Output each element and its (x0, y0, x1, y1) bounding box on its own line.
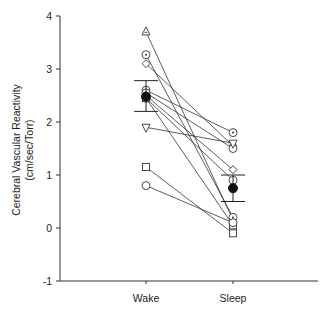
mean-marker (142, 92, 151, 101)
circle-dot-center (232, 132, 234, 134)
x-tick-label-wake: Wake (133, 292, 160, 304)
y-tick-label: 2 (46, 116, 52, 128)
square-marker (230, 230, 237, 237)
triangle-down-marker (142, 124, 150, 132)
series-markers (142, 27, 237, 237)
series-line (146, 64, 233, 146)
y-tick-label: -1 (43, 275, 52, 287)
triangle-up-marker (142, 27, 150, 35)
series-lines (146, 32, 233, 233)
chart-container: -101234WakeSleep Cerebral Vascular React… (0, 0, 327, 313)
series-line (146, 167, 233, 233)
circle-dot-center (232, 216, 234, 218)
square-marker (143, 164, 150, 171)
y-tick-label: 1 (46, 169, 52, 181)
y-tick-label: 0 (46, 222, 52, 234)
circle-marker (229, 219, 237, 227)
series-line (146, 93, 233, 149)
x-tick-label-sleep: Sleep (220, 292, 247, 304)
plot-svg: -101234WakeSleep Cerebral Vascular React… (0, 0, 327, 313)
y-axis-units: (cm/sec/Torr) (23, 119, 35, 180)
series-line (146, 96, 233, 170)
series-line (146, 98, 233, 180)
y-axis-label: Cerebral Vascular Reactivity (10, 83, 22, 215)
series-line (146, 127, 233, 143)
mean-marker (229, 184, 238, 193)
y-tick-label: 4 (46, 10, 52, 22)
series-line (146, 98, 233, 225)
y-tick-label: 3 (46, 63, 52, 75)
circle-dot-center (145, 54, 147, 56)
series-line (146, 55, 233, 218)
axes: -101234WakeSleep (43, 10, 318, 304)
circle-marker (142, 182, 150, 190)
